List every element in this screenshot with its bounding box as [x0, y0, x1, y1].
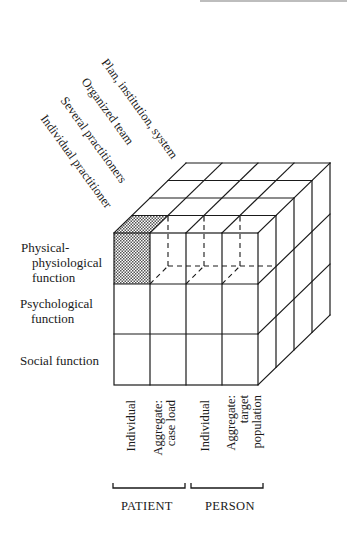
- row-label-line: Psychological: [20, 296, 93, 311]
- person-bracket: [191, 483, 263, 488]
- highlighted-cell-top: [114, 216, 168, 234]
- group-label-patient: PATIENT: [121, 499, 173, 514]
- row-label-line: Social function: [20, 353, 99, 368]
- row-label-physical-physiological: Physical- physiological function: [21, 240, 102, 285]
- hidden-edges: [150, 225, 276, 284]
- row-label-line: function: [21, 270, 102, 285]
- row-label-line: Physical-: [21, 240, 102, 255]
- column-label-patient-individual: Individual: [125, 400, 138, 470]
- row-label-psychological: Psychological function: [20, 296, 93, 326]
- column-label-line: case load: [165, 400, 178, 470]
- column-label-person-individual: Individual: [199, 400, 212, 470]
- column-label-line: Individual: [125, 400, 138, 470]
- group-brackets: [113, 483, 263, 488]
- row-label-social: Social function: [20, 353, 99, 368]
- group-label-person: PERSON: [205, 499, 255, 514]
- row-label-line: physiological: [21, 255, 102, 270]
- highlighted-cell-front: [114, 233, 150, 284]
- column-label-line: Individual: [199, 400, 212, 470]
- patient-bracket: [113, 483, 185, 488]
- column-label-line: population: [251, 395, 264, 470]
- column-label-patient-aggregate: Aggregate: case load: [152, 400, 178, 470]
- column-label-person-aggregate: Aggregate: target population: [225, 395, 264, 470]
- row-label-line: function: [20, 311, 93, 326]
